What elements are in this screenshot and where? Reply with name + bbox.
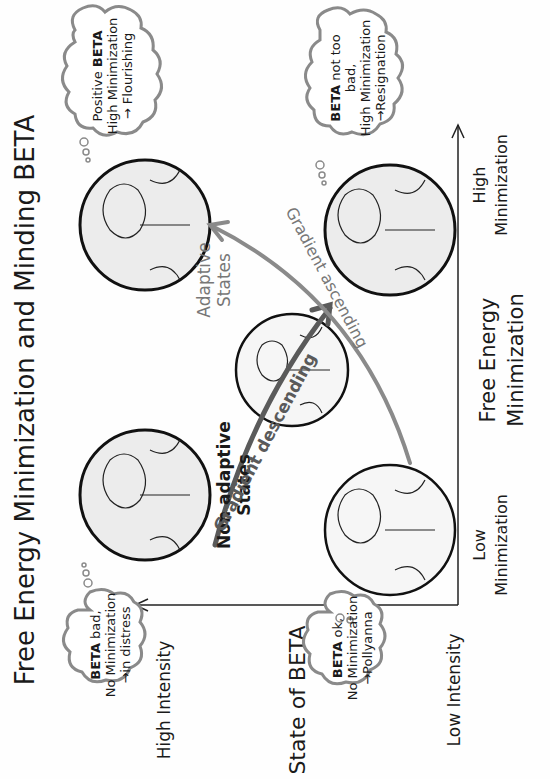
resignation-line4: →Resignation bbox=[373, 34, 388, 121]
resignation-line3: High Minimization bbox=[358, 20, 373, 137]
diagram-title: Free Energy Minimization and Minding BET… bbox=[10, 115, 40, 686]
portrait-pollyanna bbox=[325, 465, 455, 595]
thought-resignation: BETA not too bad, High Minimization →Res… bbox=[305, 8, 402, 185]
x-axis-title-group: Free Energy Minimization bbox=[476, 293, 528, 427]
thought-flourishing: Positive BETA High Minimization → Flouri… bbox=[62, 6, 161, 162]
flourishing-line1: Positive BETA bbox=[90, 31, 105, 122]
flourishing-line3: → Flourishing bbox=[120, 33, 135, 119]
y-axis-high-label: High Intensity bbox=[154, 641, 174, 759]
bubble-dot bbox=[86, 158, 90, 162]
bubble-dot bbox=[82, 563, 86, 567]
adaptive-label-2: States bbox=[214, 253, 234, 307]
diagram-title-group: Free Energy Minimization and Minding BET… bbox=[10, 115, 40, 686]
portrait-distress bbox=[80, 430, 210, 560]
y-axis-high-group: High Intensity bbox=[154, 641, 174, 759]
distress-line2: No Minimization bbox=[103, 593, 118, 697]
x-axis-high-label-2: Minimization bbox=[492, 134, 511, 236]
bubble-dot bbox=[83, 570, 89, 576]
adaptive-label-group: Adaptive States bbox=[194, 242, 234, 317]
bubble-dot bbox=[84, 579, 92, 587]
x-axis-title-1: Free Energy bbox=[476, 298, 500, 423]
bubble-dot bbox=[322, 181, 326, 185]
portrait-resignation bbox=[325, 165, 455, 295]
diagram-canvas: Free Energy Minimization and Minding BET… bbox=[0, 0, 550, 779]
pollyanna-line1: BETA ok, bbox=[330, 618, 345, 678]
thought-distress: BETA bad, No Minimization →in distress bbox=[63, 563, 145, 697]
y-axis-low-group: Low Intensity bbox=[444, 634, 464, 747]
resignation-line1: BETA not too bbox=[328, 34, 343, 121]
x-axis-title-2: Minimization bbox=[504, 293, 528, 427]
adaptive-label-1: Adaptive bbox=[194, 242, 214, 317]
distress-line1: BETA bad, bbox=[88, 610, 103, 679]
flourishing-line2: High Minimization bbox=[105, 18, 120, 135]
bubble-dot bbox=[316, 161, 324, 169]
distress-line3: →in distress bbox=[118, 606, 133, 683]
pollyanna-line2: No Minimization bbox=[345, 596, 360, 700]
x-axis-high-group: High Minimization bbox=[470, 134, 511, 236]
x-axis-low-group: Low Minimization bbox=[470, 494, 511, 596]
thought-pollyanna: BETA ok, No Minimization →Pollyanna bbox=[303, 591, 385, 700]
resignation-line2: bad, bbox=[343, 64, 358, 93]
bubble-dot bbox=[83, 149, 89, 155]
x-axis-low-label-2: Minimization bbox=[492, 494, 511, 596]
x-axis-low-label-1: Low bbox=[470, 529, 489, 561]
pollyanna-line3: →Pollyanna bbox=[360, 611, 375, 685]
portrait-flourishing bbox=[80, 160, 210, 290]
y-axis-low-label: Low Intensity bbox=[444, 634, 464, 747]
bubble-dot bbox=[80, 138, 88, 146]
x-axis-high-label-1: High bbox=[470, 167, 489, 204]
bubble-dot bbox=[319, 172, 325, 178]
